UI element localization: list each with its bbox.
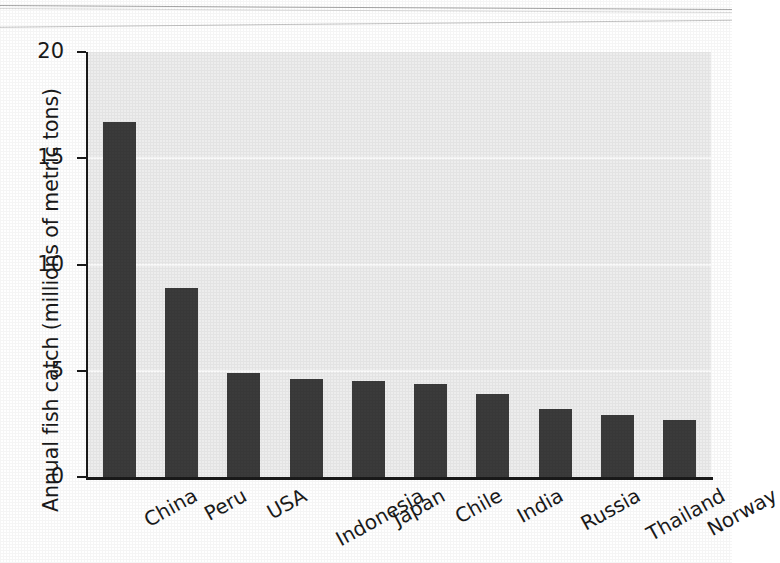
x-tick-label: Chile xyxy=(451,484,505,528)
bar[interactable] xyxy=(476,394,509,477)
bar[interactable] xyxy=(227,373,260,477)
y-tick-label: 10 xyxy=(20,254,64,275)
y-tick-label: 5 xyxy=(20,360,64,381)
x-tick-label: Peru xyxy=(201,484,251,525)
bar[interactable] xyxy=(414,384,447,478)
y-tick-mark xyxy=(77,264,86,266)
bar[interactable] xyxy=(601,415,634,477)
bar[interactable] xyxy=(165,288,198,477)
x-tick-label: USA xyxy=(263,484,310,523)
bar[interactable] xyxy=(290,379,323,477)
y-tick-mark xyxy=(77,157,86,159)
y-tick-mark xyxy=(77,370,86,372)
y-tick-label: 20 xyxy=(20,41,64,62)
y-tick-label: 15 xyxy=(20,147,64,168)
x-tick-label: China xyxy=(140,484,201,531)
x-tick-label: India xyxy=(513,484,567,527)
gridline xyxy=(88,157,711,159)
bar[interactable] xyxy=(352,381,385,477)
x-tick-label: Russia xyxy=(577,484,644,534)
plot-area xyxy=(88,52,711,477)
y-tick-label: 0 xyxy=(20,466,64,487)
y-tick-mark xyxy=(77,51,86,53)
bar[interactable] xyxy=(663,420,696,477)
y-tick-mark xyxy=(77,476,86,478)
bar[interactable] xyxy=(103,122,136,477)
gridline xyxy=(88,264,711,266)
bar[interactable] xyxy=(539,409,572,477)
x-axis-line xyxy=(86,477,713,480)
